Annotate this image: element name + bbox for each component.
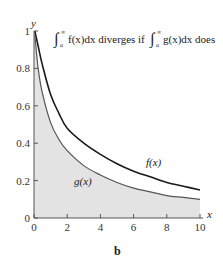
upper-limit: ∞: [157, 29, 161, 35]
g-curve-label: g(x): [74, 175, 92, 188]
x-axis-label: x: [206, 208, 212, 220]
panel-label: b: [114, 244, 121, 258]
title-part-1: f(x)dx diverges if: [68, 33, 145, 46]
lower-limit: a: [60, 42, 63, 48]
f-curve-label: f(x): [146, 156, 162, 169]
plot-area: [34, 31, 200, 218]
y-axis-label: y: [30, 17, 36, 29]
upper-limit: ∞: [61, 29, 65, 35]
y-tick-label: 0.4: [16, 137, 30, 149]
y-tick-label: 0.6: [16, 100, 30, 112]
x-tick-label: 2: [64, 221, 70, 233]
y-tick-label: 0.8: [16, 62, 30, 74]
title-part-2: g(x)dx does: [163, 33, 215, 46]
x-tick-label: 4: [98, 221, 104, 233]
x-tick-label: 0: [31, 221, 37, 233]
x-tick-label: 8: [164, 221, 170, 233]
g-shaded-area: [34, 31, 200, 218]
chart: 024681000.20.40.60.81 y x ∫ ∞ a f(x)dx d…: [0, 0, 223, 263]
integral-sign-icon: ∫: [149, 30, 156, 49]
y-tick-label: 0: [25, 212, 31, 224]
x-tick-label: 6: [131, 221, 137, 233]
y-tick-label: 0.2: [16, 175, 30, 187]
y-tick-label: 1: [25, 25, 31, 37]
chart-title: ∫ ∞ a f(x)dx diverges if ∫ ∞ a g(x)dx do…: [53, 29, 215, 49]
integral-sign-icon: ∫: [53, 30, 60, 49]
lower-limit: a: [156, 42, 159, 48]
x-tick-label: 10: [195, 221, 207, 233]
